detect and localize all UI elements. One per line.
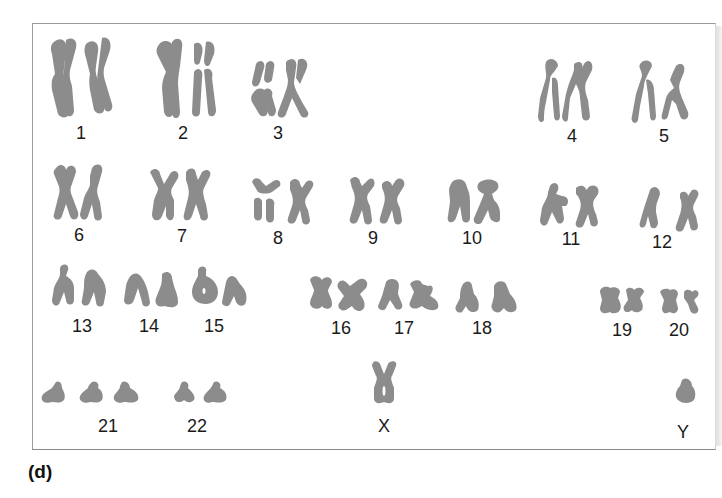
chromosome-label: 18 bbox=[472, 318, 492, 339]
chromosome-3-icon bbox=[248, 58, 318, 122]
chromosome-x-icon bbox=[370, 360, 398, 406]
chromosome-label: 14 bbox=[139, 316, 159, 337]
chromosome-8-icon bbox=[250, 176, 316, 226]
chromosome-label: 6 bbox=[74, 225, 84, 246]
chromosome-16-icon bbox=[308, 276, 368, 314]
chromosome-label: 8 bbox=[273, 228, 283, 249]
chromosome-12-icon bbox=[640, 186, 704, 236]
chromosome-15-icon bbox=[190, 266, 250, 312]
chromosome-13-icon bbox=[52, 264, 112, 312]
chromosome-9-icon bbox=[346, 176, 412, 226]
chromosome-17-icon bbox=[378, 278, 442, 314]
chromosome-label: Y bbox=[677, 422, 689, 443]
chromosome-label: 19 bbox=[612, 320, 632, 341]
chromosome-5-icon bbox=[632, 60, 698, 126]
chromosome-label: 2 bbox=[178, 123, 188, 144]
chromosome-label: 7 bbox=[177, 226, 187, 247]
chromosome-4-icon bbox=[538, 58, 604, 124]
chromosome-10-icon bbox=[444, 178, 510, 226]
chromosome-label: 4 bbox=[567, 126, 577, 147]
chromosome-14-icon bbox=[122, 270, 182, 312]
chromosome-22-icon bbox=[172, 380, 232, 406]
chromosome-label: 12 bbox=[652, 232, 672, 253]
chromosome-11-icon bbox=[540, 182, 606, 230]
chromosome-7-icon bbox=[146, 166, 216, 226]
chromosome-18-icon bbox=[454, 280, 520, 316]
chromosome-label: 11 bbox=[562, 229, 581, 250]
chromosome-19-icon bbox=[598, 286, 648, 316]
chromosome-label: 3 bbox=[273, 123, 283, 144]
chromosome-label: 10 bbox=[462, 228, 482, 249]
chromosome-label: 22 bbox=[187, 416, 207, 437]
page-edge-shadow bbox=[715, 26, 722, 446]
chromosome-label: 17 bbox=[394, 318, 414, 339]
chromosome-2-icon bbox=[154, 38, 224, 122]
panel-label: (d) bbox=[28, 461, 52, 483]
chromosome-label: 9 bbox=[368, 228, 378, 249]
chromosome-label: X bbox=[378, 416, 390, 437]
chromosome-label: 5 bbox=[659, 126, 669, 147]
chromosome-1-icon bbox=[46, 38, 116, 122]
chromosome-label: 13 bbox=[72, 316, 92, 337]
chromosome-21-icon bbox=[40, 380, 142, 406]
chromosome-y-icon bbox=[674, 378, 698, 406]
chromosome-label: 16 bbox=[331, 318, 351, 339]
chromosome-label: 15 bbox=[204, 316, 224, 337]
chromosome-6-icon bbox=[50, 164, 112, 224]
chromosome-label: 21 bbox=[98, 416, 118, 437]
chromosome-label: 1 bbox=[76, 123, 86, 144]
chromosome-20-icon bbox=[660, 288, 704, 316]
chromosome-label: 20 bbox=[669, 320, 689, 341]
